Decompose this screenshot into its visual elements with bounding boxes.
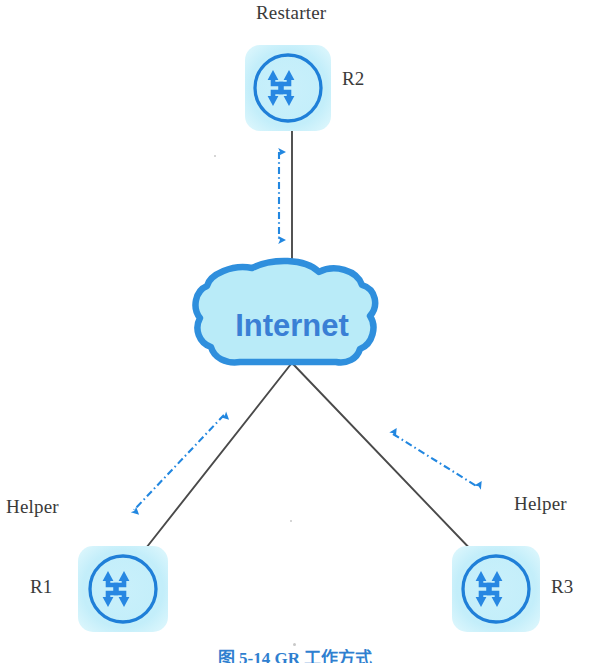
scan-speck [214, 155, 216, 157]
node-label-r2: R2 [342, 68, 365, 90]
role-label-helper-left: Helper [6, 496, 59, 518]
scan-speck [290, 520, 292, 522]
node-r2[interactable] [245, 45, 331, 131]
link-internet-r1 [139, 364, 291, 557]
role-label-restarter: Restarter [256, 2, 326, 24]
link-internet-r3 [293, 364, 477, 556]
figure-caption: 图 5-14 GR 工作方式 [0, 649, 590, 663]
node-label-r1: R1 [30, 576, 53, 598]
signal-arrow-internet-r1 [134, 415, 224, 510]
internet-label: Internet [235, 308, 349, 343]
node-r3[interactable] [452, 546, 540, 632]
node-r1[interactable] [78, 546, 168, 632]
signal-arrow-internet-r3 [393, 434, 478, 487]
network-diagram-page: Internet [0, 0, 590, 663]
diagram-canvas: Internet [0, 0, 590, 663]
role-label-helper-right: Helper [514, 493, 567, 515]
node-internet[interactable]: Internet [196, 261, 376, 362]
router-box-r3 [452, 546, 540, 632]
node-label-r3: R3 [551, 576, 574, 598]
router-box-r2 [245, 45, 331, 131]
scan-speck [293, 643, 296, 646]
